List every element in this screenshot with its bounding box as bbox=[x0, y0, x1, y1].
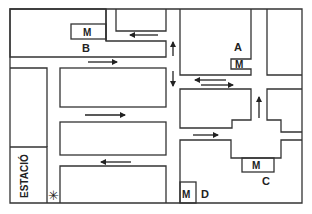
metro-d-label: M bbox=[182, 189, 190, 200]
metro-a-label: M bbox=[235, 59, 243, 70]
label-b: B bbox=[82, 42, 90, 54]
block-center-1 bbox=[60, 68, 166, 107]
street-edge bbox=[10, 68, 47, 147]
street-map: M B A M M C M D ESTACIÓ ✳ bbox=[0, 0, 312, 214]
station-label: ESTACIÓ bbox=[18, 154, 30, 198]
block-center-3 bbox=[60, 166, 166, 203]
map-frame bbox=[10, 9, 302, 203]
metro-b-label: M bbox=[83, 27, 91, 38]
block-top-middle bbox=[106, 9, 166, 41]
block-center-2 bbox=[60, 122, 166, 155]
metro-c-label: M bbox=[252, 160, 260, 171]
label-a: A bbox=[234, 41, 242, 53]
block-bottom-right bbox=[180, 140, 302, 203]
block-right-center bbox=[180, 89, 251, 128]
label-d: D bbox=[201, 188, 209, 200]
block-right-middle bbox=[267, 89, 302, 132]
block-right-top bbox=[267, 9, 302, 75]
start-marker-icon: ✳ bbox=[48, 188, 59, 203]
label-c: C bbox=[262, 175, 270, 187]
